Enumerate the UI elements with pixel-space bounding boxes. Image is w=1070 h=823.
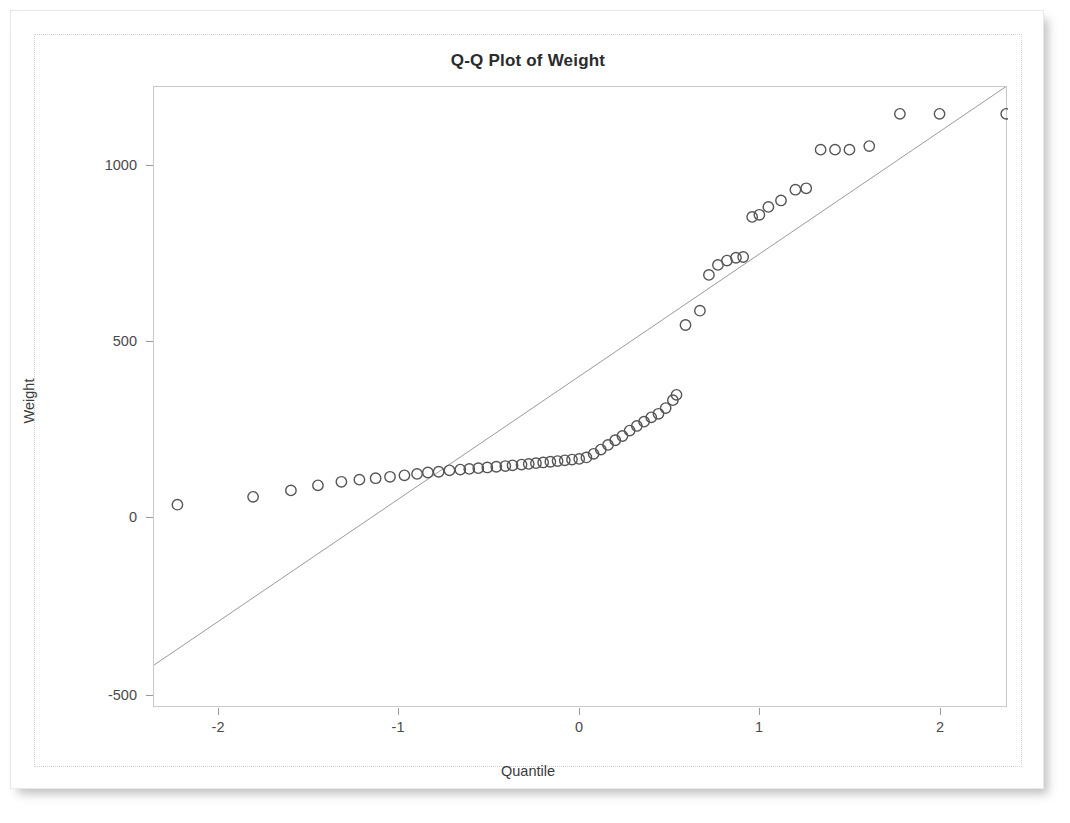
- y-tick-mark-0: [146, 517, 153, 518]
- data-points-group: [172, 109, 1008, 510]
- y-tick-label-1000: 1000: [71, 157, 137, 173]
- data-point: [423, 467, 433, 477]
- data-point: [934, 109, 944, 119]
- data-point: [801, 183, 811, 193]
- x-tick-mark-minus1: [398, 708, 399, 715]
- data-point: [738, 252, 748, 262]
- data-point: [354, 474, 364, 484]
- y-tick-mark-500: [146, 341, 153, 342]
- data-point: [680, 320, 690, 330]
- data-point: [754, 210, 764, 220]
- data-point: [763, 202, 773, 212]
- x-tick-label-minus2: -2: [212, 719, 225, 735]
- data-point: [412, 469, 422, 479]
- data-point: [815, 144, 825, 154]
- chart-title: Q-Q Plot of Weight: [11, 51, 1045, 71]
- data-point: [370, 473, 380, 483]
- data-point: [864, 141, 874, 151]
- data-point: [286, 485, 296, 495]
- x-tick-label-1: 1: [755, 719, 763, 735]
- plot-area: [153, 86, 1007, 707]
- scatter-plot-canvas: [154, 87, 1008, 708]
- data-point: [830, 144, 840, 154]
- x-tick-mark-2: [940, 708, 941, 715]
- x-tick-mark-minus2: [218, 708, 219, 715]
- y-tick-mark-1000: [146, 165, 153, 166]
- y-axis-title: Weight: [21, 379, 37, 424]
- data-point: [695, 306, 705, 316]
- x-tick-label-minus1: -1: [392, 719, 405, 735]
- y-tick-mark-minus500: [146, 695, 153, 696]
- data-point: [1001, 109, 1008, 119]
- data-point: [336, 477, 346, 487]
- data-point: [172, 500, 182, 510]
- qq-plot-figure: Q-Q Plot of Weight Weight 1000 500 0 -50…: [11, 11, 1045, 790]
- y-tick-label-500: 500: [71, 333, 137, 349]
- data-point: [313, 480, 323, 490]
- x-axis-title: Quantile: [11, 763, 1045, 779]
- y-tick-label-minus500: -500: [71, 687, 137, 703]
- data-point: [574, 454, 584, 464]
- reference-line: [154, 87, 1008, 665]
- data-point: [844, 144, 854, 154]
- data-point: [385, 472, 395, 482]
- reference-line-segment: [154, 87, 1008, 665]
- data-point: [444, 465, 454, 475]
- x-tick-label-0: 0: [575, 719, 583, 735]
- data-point: [776, 195, 786, 205]
- x-tick-label-2: 2: [936, 719, 944, 735]
- data-point: [248, 492, 258, 502]
- x-tick-mark-0: [579, 708, 580, 715]
- chart-card: Q-Q Plot of Weight Weight 1000 500 0 -50…: [10, 10, 1044, 789]
- page-root: Q-Q Plot of Weight Weight 1000 500 0 -50…: [0, 0, 1070, 823]
- data-point: [747, 212, 757, 222]
- data-point: [790, 185, 800, 195]
- data-point: [399, 470, 409, 480]
- x-tick-mark-1: [759, 708, 760, 715]
- data-point: [704, 270, 714, 280]
- y-tick-label-0: 0: [71, 509, 137, 525]
- data-point: [895, 109, 905, 119]
